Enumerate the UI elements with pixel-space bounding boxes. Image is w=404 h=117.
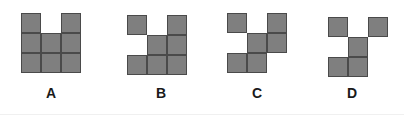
square-cell <box>227 53 247 73</box>
square-cell <box>127 15 147 35</box>
square-cell <box>328 17 348 37</box>
square-cell <box>61 33 81 53</box>
square-cell <box>167 35 187 55</box>
figure-label-a: A <box>46 86 56 100</box>
square-cell <box>247 33 267 53</box>
square-cell <box>147 35 167 55</box>
square-cell <box>147 55 167 75</box>
square-cell <box>127 55 147 75</box>
square-cell <box>41 53 61 73</box>
square-cell <box>21 13 41 33</box>
square-cell <box>267 13 287 33</box>
square-cell <box>328 57 348 77</box>
figure-label-c: C <box>252 86 262 100</box>
square-cell <box>227 13 247 33</box>
square-cell <box>61 53 81 73</box>
square-cell <box>21 53 41 73</box>
square-cell <box>348 37 368 57</box>
square-cell <box>61 13 81 33</box>
figure-label-b: B <box>156 86 166 100</box>
figure-label-d: D <box>347 86 357 100</box>
square-cell <box>167 15 187 35</box>
square-cell <box>267 33 287 53</box>
square-cell <box>368 17 388 37</box>
square-cell <box>167 55 187 75</box>
square-cell <box>348 57 368 77</box>
divider <box>0 114 404 115</box>
square-cell <box>21 33 41 53</box>
square-cell <box>247 53 267 73</box>
square-cell <box>41 33 61 53</box>
